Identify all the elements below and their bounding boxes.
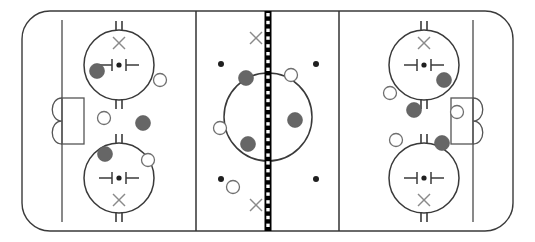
center-line-segment-2: [266, 29, 269, 32]
player-dark-3: [98, 147, 113, 162]
center-line-segment-24: [266, 200, 269, 203]
player-dark-6: [241, 137, 256, 152]
center-line-segment-4: [266, 44, 269, 47]
center-line-segment-21: [266, 177, 269, 180]
center-line-segment-26: [266, 216, 269, 219]
faceoff-circle-bottom-right-dot: [421, 175, 426, 180]
center-line-segment-15: [266, 130, 269, 133]
center-line-segment-0: [266, 13, 269, 16]
player-dark-5: [288, 113, 303, 128]
player-light-5: [214, 122, 227, 135]
center-line: [265, 11, 272, 231]
player-light-2: [98, 112, 111, 125]
center-line-segment-14: [266, 122, 269, 125]
faceoff-circle-bottom-left-dot: [116, 175, 121, 180]
player-dark-4: [239, 71, 254, 86]
hockey-rink-diagram: [0, 0, 535, 242]
center-line-segment-8: [266, 75, 269, 78]
faceoff-circle-top-right-dot: [421, 62, 426, 67]
center-line-segment-12: [266, 107, 269, 110]
center-line-segment-6: [266, 60, 269, 63]
player-light-8: [451, 106, 464, 119]
center-line-segment-27: [266, 224, 269, 227]
player-dark-2: [136, 116, 151, 131]
center-line-segment-22: [266, 185, 269, 188]
player-light-4: [285, 69, 298, 82]
center-line-segment-9: [266, 83, 269, 86]
center-line-segment-5: [266, 52, 269, 55]
center-line-segment-19: [266, 161, 269, 164]
player-dark-9: [435, 136, 450, 151]
neutral-dot-bottom-right: [313, 176, 319, 182]
player-light-1: [154, 74, 167, 87]
rink-canvas: [0, 0, 535, 242]
center-line-segment-11: [266, 99, 269, 102]
center-line-segment-20: [266, 169, 269, 172]
center-line-segment-10: [266, 91, 269, 94]
center-line-segment-13: [266, 114, 269, 117]
center-line-segment-7: [266, 68, 269, 71]
center-line-bar: [265, 11, 272, 231]
center-line-segment-17: [266, 146, 269, 149]
player-light-6: [227, 181, 240, 194]
player-dark-7: [437, 73, 452, 88]
player-light-3: [142, 154, 155, 167]
center-line-segment-18: [266, 153, 269, 156]
neutral-dot-top-right: [313, 61, 319, 67]
player-light-7: [384, 87, 397, 100]
center-line-segment-23: [266, 192, 269, 195]
center-line-segment-1: [266, 21, 269, 24]
player-light-9: [390, 134, 403, 147]
center-line-segment-16: [266, 138, 269, 141]
player-dark-1: [90, 64, 105, 79]
neutral-dot-top-left: [218, 61, 224, 67]
faceoff-circle-top-left-dot: [116, 62, 121, 67]
neutral-dot-bottom-left: [218, 176, 224, 182]
player-dark-8: [407, 103, 422, 118]
center-line-segment-25: [266, 208, 269, 211]
center-line-segment-3: [266, 36, 269, 39]
